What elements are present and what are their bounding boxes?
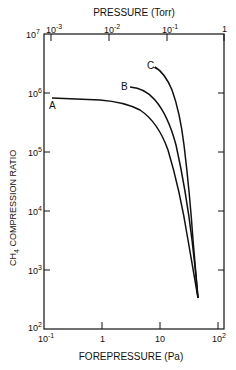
svg-text:107: 107 <box>26 28 40 40</box>
curve-a <box>52 98 198 298</box>
curve-b <box>130 87 198 298</box>
svg-text:10-2: 10-2 <box>104 23 120 35</box>
svg-text:1: 1 <box>222 24 227 34</box>
x2-axis-ticks <box>51 34 224 41</box>
curve-label-b: B <box>121 81 128 92</box>
x2-tick-labels: 10-3 10-2 10-1 1 <box>46 23 227 35</box>
svg-text:102: 102 <box>212 332 226 344</box>
x-axis-title: FOREPRESSURE (Pa) <box>79 351 183 362</box>
svg-text:104: 104 <box>28 205 42 217</box>
svg-text:10-3: 10-3 <box>46 23 62 35</box>
curve-label-c: C <box>147 60 154 71</box>
curve-label-a: A <box>49 100 56 111</box>
svg-text:106: 106 <box>28 87 42 99</box>
svg-text:103: 103 <box>28 264 42 276</box>
y-axis-ticks <box>44 93 224 270</box>
svg-text:105: 105 <box>28 146 42 158</box>
x-tick-labels: 10-1 1 10 102 <box>38 332 226 344</box>
svg-text:10-1: 10-1 <box>38 332 54 344</box>
svg-text:102: 102 <box>28 321 42 333</box>
svg-text:10-1: 10-1 <box>162 23 178 35</box>
y-axis-title: CH4 COMPRESSION RATIO <box>8 150 20 266</box>
x-axis-ticks <box>102 322 218 329</box>
chart: PRESSURE (Torr) 107 106 105 104 103 102 … <box>0 0 236 370</box>
svg-text:10: 10 <box>155 334 165 344</box>
top-axis-title: PRESSURE (Torr) <box>93 7 175 18</box>
svg-text:1: 1 <box>100 334 105 344</box>
y-tick-labels: 107 106 105 104 103 102 <box>26 28 42 333</box>
